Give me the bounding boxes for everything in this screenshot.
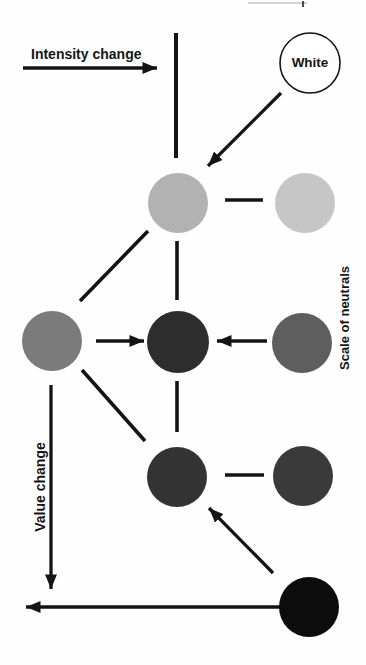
neutral-dark-center-circle: [147, 311, 209, 373]
value-change-label: Value change: [33, 442, 47, 531]
scale-of-neutrals-label: Scale of neutrals: [338, 266, 351, 370]
neutral-dark-right-circle: [272, 313, 332, 373]
diagonal-up-line: [80, 231, 148, 301]
neutral-darker-center-circle: [147, 447, 207, 507]
white-circle-label: White: [292, 56, 329, 70]
diagram-shapes: [0, 0, 366, 665]
neutral-mid-gray-circle: [22, 311, 82, 371]
white-to-gray-arrow: [208, 93, 281, 166]
black-circle: [279, 577, 339, 637]
diagram-canvas: Intensity change White Value change Scal…: [0, 0, 366, 665]
neutral-lighter-circle: [275, 173, 335, 233]
black-to-dark-arrow: [209, 508, 273, 573]
neutral-light-circle: [148, 173, 208, 233]
neutral-darker-right-circle: [273, 446, 333, 506]
diagonal-down-line: [82, 370, 145, 441]
intensity-change-label: Intensity change: [31, 47, 141, 61]
